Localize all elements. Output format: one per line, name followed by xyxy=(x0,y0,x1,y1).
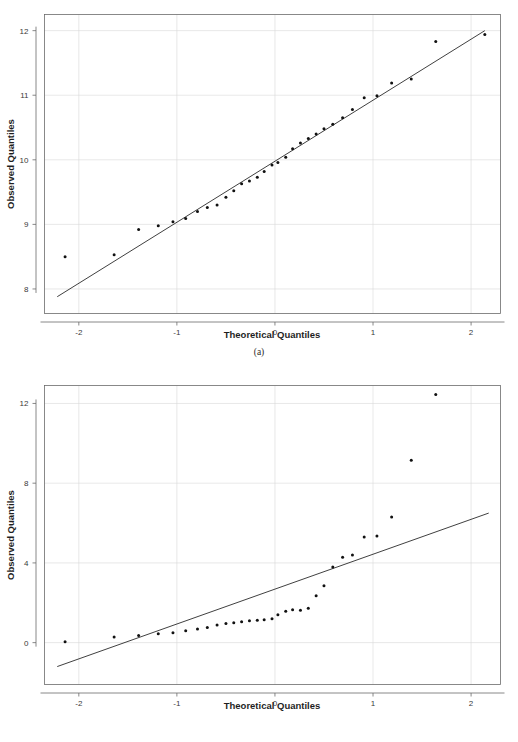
data-point xyxy=(331,123,334,126)
data-point xyxy=(263,170,266,173)
y-axis-title-a: Observed Quantiles xyxy=(5,119,16,209)
data-point xyxy=(248,180,251,183)
y-axis-b: 04812 xyxy=(20,399,36,647)
data-point xyxy=(256,176,259,179)
data-point xyxy=(341,556,344,559)
qq-plot-panel-a: -2-1012 89101112 Theoretical Quantiles O… xyxy=(0,0,518,371)
data-point xyxy=(410,459,413,462)
y-tick-label: 12 xyxy=(20,399,29,408)
reference-line-a xyxy=(57,31,485,297)
data-point xyxy=(390,81,393,84)
x-tick-label: 2 xyxy=(469,328,474,337)
y-axis-a: 89101112 xyxy=(20,27,36,294)
plot-frame-b xyxy=(45,386,501,685)
data-point xyxy=(276,613,279,616)
data-point xyxy=(375,94,378,97)
data-point xyxy=(224,622,227,625)
data-point xyxy=(271,617,274,620)
data-point xyxy=(284,610,287,613)
qq-plot-b-svg: -2-1012 04812 Theoretical Quantiles Obse… xyxy=(0,371,518,718)
reference-line-b xyxy=(57,513,488,666)
data-point xyxy=(307,607,310,610)
data-point xyxy=(315,132,318,135)
data-point xyxy=(171,220,174,223)
y-tick-label: 8 xyxy=(24,479,29,488)
data-point xyxy=(216,204,219,207)
data-point xyxy=(240,620,243,623)
data-point xyxy=(184,217,187,220)
data-point xyxy=(307,137,310,140)
data-point xyxy=(206,626,209,629)
data-point xyxy=(157,632,160,635)
data-point xyxy=(232,189,235,192)
x-tick-label: -1 xyxy=(173,699,181,708)
data-point xyxy=(196,210,199,213)
y-tick-label: 8 xyxy=(24,285,29,294)
data-point xyxy=(291,608,294,611)
data-point xyxy=(322,127,325,130)
data-point xyxy=(263,618,266,621)
y-tick-label: 0 xyxy=(24,639,29,648)
x-tick-label: -2 xyxy=(75,328,83,337)
qq-reference-line xyxy=(57,31,485,297)
qq-plot-a-svg: -2-1012 89101112 Theoretical Quantiles O… xyxy=(0,0,518,347)
x-tick-label: 1 xyxy=(371,328,376,337)
data-point xyxy=(137,634,140,637)
data-point xyxy=(171,631,174,634)
data-point xyxy=(434,40,437,43)
data-point xyxy=(256,619,259,622)
data-point xyxy=(113,253,116,256)
data-point xyxy=(206,206,209,209)
x-tick-label: -1 xyxy=(173,328,181,337)
y-axis-title-b: Observed Quantiles xyxy=(5,490,16,580)
data-point xyxy=(341,116,344,119)
data-point xyxy=(232,621,235,624)
data-point xyxy=(315,594,318,597)
data-point xyxy=(434,393,437,396)
data-point xyxy=(224,196,227,199)
y-tick-label: 9 xyxy=(24,220,29,229)
qq-plot-panel-b: -2-1012 04812 Theoretical Quantiles Obse… xyxy=(0,371,518,742)
x-tick-label: 2 xyxy=(469,699,474,708)
data-point xyxy=(271,163,274,166)
data-point xyxy=(113,636,116,639)
x-axis-title-a: Theoretical Quantiles xyxy=(224,329,321,340)
data-point xyxy=(291,147,294,150)
data-point xyxy=(410,78,413,81)
data-point xyxy=(240,182,243,185)
data-point xyxy=(322,584,325,587)
y-tick-label: 10 xyxy=(20,156,29,165)
data-point xyxy=(64,640,67,643)
figure-page: -2-1012 89101112 Theoretical Quantiles O… xyxy=(0,0,518,742)
data-point xyxy=(64,255,67,258)
data-point xyxy=(483,33,486,36)
data-point xyxy=(351,108,354,111)
y-tick-label: 11 xyxy=(20,91,29,100)
x-tick-label: -2 xyxy=(75,699,83,708)
data-point xyxy=(299,142,302,145)
data-point xyxy=(363,96,366,99)
y-tick-label: 12 xyxy=(20,27,29,36)
data-point xyxy=(184,629,187,632)
data-point xyxy=(216,624,219,627)
qq-reference-line xyxy=(57,513,488,666)
data-point xyxy=(196,628,199,631)
data-point xyxy=(331,565,334,568)
data-point xyxy=(299,609,302,612)
data-point xyxy=(284,156,287,159)
data-point xyxy=(248,619,251,622)
data-points-b xyxy=(64,393,438,643)
data-point xyxy=(363,535,366,538)
panel-caption-a: (a) xyxy=(0,347,518,357)
data-point xyxy=(351,553,354,556)
x-tick-label: 1 xyxy=(371,699,376,708)
x-axis-title-b: Theoretical Quantiles xyxy=(224,700,321,711)
data-point xyxy=(276,161,279,164)
data-point xyxy=(137,228,140,231)
grid-lines-b xyxy=(45,386,501,685)
data-point xyxy=(390,516,393,519)
y-tick-label: 4 xyxy=(24,559,29,568)
data-point xyxy=(375,534,378,537)
data-point xyxy=(157,224,160,227)
